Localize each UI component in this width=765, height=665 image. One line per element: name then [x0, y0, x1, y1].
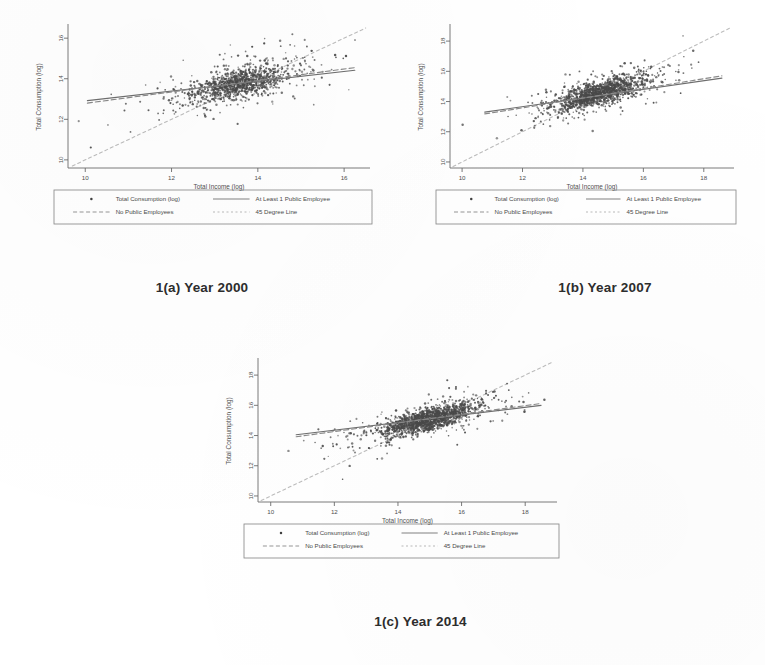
svg-text:12: 12: [519, 174, 526, 181]
svg-text:10: 10: [57, 156, 64, 163]
svg-text:18: 18: [439, 37, 446, 44]
svg-text:14: 14: [254, 174, 261, 181]
caption-b: 1(b) Year 2007: [440, 280, 765, 295]
svg-text:16: 16: [57, 34, 64, 41]
svg-text:Total Consumption (log): Total Consumption (log): [225, 397, 233, 465]
scatter-chart-year-2000: 1012141610121416Total Income (log)Total …: [28, 18, 376, 233]
svg-text:18: 18: [522, 508, 529, 515]
chart-c-plot-area: 10121416181012141618Total Income (log)To…: [218, 352, 563, 567]
svg-text:14: 14: [57, 75, 64, 82]
svg-text:18: 18: [247, 371, 254, 378]
svg-text:Total Consumption (log): Total Consumption (log): [417, 63, 425, 131]
svg-text:12: 12: [247, 462, 254, 469]
svg-text:10: 10: [247, 492, 254, 499]
caption-a: 1(a) Year 2000: [28, 280, 376, 295]
svg-text:Total Consumption (log): Total Consumption (log): [116, 195, 180, 202]
svg-text:16: 16: [439, 67, 446, 74]
figure-panel-c: 10121416181012141618Total Income (log)To…: [218, 352, 563, 652]
svg-text:10: 10: [82, 174, 89, 181]
chart-a-plot-area: 1012141610121416Total Income (log)Total …: [28, 18, 376, 233]
svg-text:16: 16: [247, 401, 254, 408]
svg-text:14: 14: [395, 508, 402, 515]
svg-text:Total Consumption (log): Total Consumption (log): [35, 63, 43, 131]
scatter-chart-year-2014: 10121416181012141618Total Income (log)To…: [218, 352, 563, 567]
svg-text:Total Consumption (log): Total Consumption (log): [305, 529, 369, 536]
svg-text:12: 12: [331, 508, 338, 515]
svg-text:14: 14: [579, 174, 586, 181]
svg-text:16: 16: [640, 174, 647, 181]
svg-text:At Least 1 Public Employee: At Least 1 Public Employee: [444, 529, 519, 536]
svg-text:45 Degree Line: 45 Degree Line: [627, 208, 669, 215]
svg-text:45 Degree Line: 45 Degree Line: [256, 208, 298, 215]
svg-text:14: 14: [247, 432, 254, 439]
svg-text:At Least 1 Public Employee: At Least 1 Public Employee: [256, 195, 331, 202]
caption-c: 1(c) Year 2014: [248, 614, 593, 629]
svg-text:16: 16: [458, 508, 465, 515]
svg-text:At Least 1 Public Employee: At Least 1 Public Employee: [627, 195, 702, 202]
svg-text:14: 14: [439, 98, 446, 105]
svg-text:Total Consumption (log): Total Consumption (log): [495, 195, 559, 202]
svg-text:12: 12: [168, 174, 175, 181]
svg-text:10: 10: [267, 508, 274, 515]
svg-text:18: 18: [700, 174, 707, 181]
figure-panel-a: 1012141610121416Total Income (log)Total …: [28, 18, 376, 318]
svg-text:12: 12: [57, 115, 64, 122]
svg-text:45 Degree Line: 45 Degree Line: [444, 542, 486, 549]
svg-text:12: 12: [439, 128, 446, 135]
svg-text:No Public Employees: No Public Employees: [116, 208, 174, 215]
figure-panel-b: 10121416181012141618Total Income (log)To…: [410, 18, 740, 318]
chart-b-plot-area: 10121416181012141618Total Income (log)To…: [410, 18, 740, 233]
svg-text:16: 16: [341, 174, 348, 181]
svg-text:No Public Employees: No Public Employees: [305, 542, 363, 549]
scatter-chart-year-2007: 10121416181012141618Total Income (log)To…: [410, 18, 740, 233]
svg-text:No Public Employees: No Public Employees: [495, 208, 553, 215]
svg-text:10: 10: [459, 174, 466, 181]
svg-text:10: 10: [439, 158, 446, 165]
